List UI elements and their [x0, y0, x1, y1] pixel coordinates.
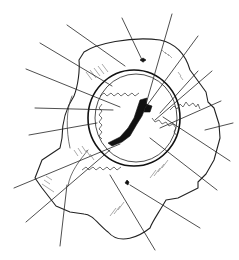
- leader-line: [35, 108, 113, 110]
- labrum-tear-left: [99, 104, 102, 139]
- hatching-left: [42, 64, 108, 192]
- bone-outline: [35, 39, 220, 239]
- labrum-tear-right: [152, 118, 177, 136]
- hatching-right: [110, 50, 183, 216]
- figure-canvas: [0, 0, 239, 260]
- leader-line: [67, 25, 125, 66]
- leader-line: [130, 185, 200, 228]
- anatomical-figure: [0, 0, 239, 260]
- ilium-ridge: [67, 96, 72, 148]
- leader-line: [60, 185, 67, 246]
- leader-line: [145, 36, 198, 108]
- leader-lines: [14, 14, 233, 250]
- lower-marker: [125, 180, 129, 185]
- fovea-fissure: [108, 98, 147, 146]
- leader-line: [155, 71, 212, 120]
- leader-line: [14, 144, 120, 188]
- labrum-tear-upper: [100, 93, 139, 96]
